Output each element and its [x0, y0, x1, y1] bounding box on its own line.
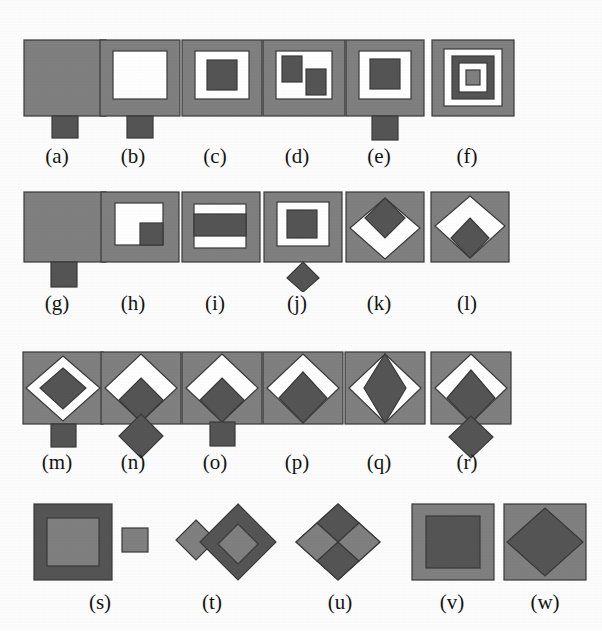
shape-figure-e [340, 32, 432, 144]
figure-panel: (a)(b)(c)(d)(e)(f)(g)(h)(i)(j)(k)(l)(m)(… [0, 0, 602, 631]
shape-part-g-2-dark [51, 262, 77, 287]
shape-part-j-4-dark [287, 262, 319, 292]
shape-part-v-2-dark [426, 516, 480, 568]
shape-part-i-3-dark [194, 214, 246, 236]
shape-label-v: (v) [422, 592, 482, 613]
shape-label-l: (l) [437, 293, 497, 314]
shape-part-c-3-dark [207, 60, 237, 90]
shape-figure-d [258, 32, 350, 124]
shape-figure-v [408, 500, 498, 586]
shape-figure-w [500, 500, 590, 586]
shape-glyph-s [28, 500, 168, 586]
shape-glyph-e [340, 32, 432, 144]
shape-label-a: (a) [27, 146, 87, 167]
shape-label-h: (h) [103, 293, 163, 314]
shape-figure-q [340, 348, 432, 432]
shape-glyph-d [258, 32, 350, 124]
shape-label-e: (e) [349, 146, 409, 167]
shape-label-g: (g) [27, 293, 87, 314]
shape-figure-s [28, 500, 168, 586]
shape-label-d: (d) [267, 146, 327, 167]
shape-label-w: (w) [515, 592, 575, 613]
shape-glyph-w [500, 500, 590, 586]
shape-figure-i [178, 188, 264, 268]
shape-label-u: (u) [310, 592, 370, 613]
shape-part-h-3-dark [140, 223, 163, 245]
shape-figure-p [258, 348, 350, 432]
shape-part-b-2-white [113, 51, 167, 99]
shape-glyph-j [258, 188, 348, 292]
shape-part-d-3-dark [282, 56, 302, 82]
shape-part-s-3-gray [122, 528, 148, 552]
shape-label-i: (i) [185, 293, 245, 314]
shape-label-j: (j) [267, 293, 327, 314]
shape-label-f: (f) [437, 146, 497, 167]
shape-label-s: (s) [70, 592, 130, 613]
shape-glyph-b [94, 32, 190, 144]
shape-glyph-f [425, 32, 521, 124]
shape-part-g-1-gray [24, 192, 106, 262]
shape-part-e-4-dark [372, 116, 398, 140]
shape-figure-k [342, 188, 428, 268]
shape-part-j-3-dark [287, 210, 317, 238]
shape-glyph-k [342, 188, 428, 268]
shape-part-b-3-dark [127, 116, 153, 138]
shape-figure-c [177, 32, 267, 124]
shape-part-o-4-dark [210, 422, 235, 446]
shape-figure-u [292, 500, 388, 586]
shape-glyph-v [408, 500, 498, 586]
shape-glyph-r [425, 348, 521, 460]
shape-glyph-h [97, 188, 183, 268]
shape-part-e-3-dark [370, 59, 400, 89]
shape-label-t: (t) [182, 592, 242, 613]
shape-figure-r [425, 348, 521, 460]
shape-label-q: (q) [349, 452, 409, 473]
shape-glyph-i [178, 188, 264, 268]
shape-figure-t [172, 500, 280, 586]
shape-figure-l [427, 188, 513, 268]
shape-part-s-2-gray [47, 518, 99, 566]
shape-figure-h [97, 188, 183, 268]
shape-part-d-4-dark [306, 69, 326, 95]
shape-glyph-t [172, 500, 280, 586]
shape-part-m-4-dark [51, 424, 76, 447]
shape-label-p: (p) [267, 452, 327, 473]
shape-figure-j [258, 188, 348, 292]
shape-label-o: (o) [185, 452, 245, 473]
shape-figure-b [94, 32, 190, 144]
shape-glyph-u [292, 500, 388, 586]
shape-label-c: (c) [185, 146, 245, 167]
shape-label-k: (k) [349, 293, 409, 314]
shape-label-b: (b) [103, 146, 163, 167]
shape-label-r: (r) [437, 452, 497, 473]
shape-glyph-q [340, 348, 432, 432]
shape-glyph-p [258, 348, 350, 432]
shape-glyph-l [427, 188, 513, 268]
shape-label-m: (m) [27, 452, 87, 473]
shape-glyph-c [177, 32, 267, 124]
shape-part-f-5-gray [466, 70, 480, 85]
shape-label-n: (n) [103, 452, 163, 473]
shape-part-a-2-dark [52, 116, 78, 138]
shape-figure-f [425, 32, 521, 124]
